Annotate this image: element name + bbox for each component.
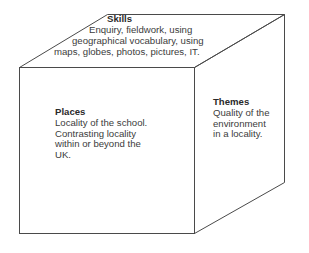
top-face-label: Skills Enquiry, fieldwork, using geograp… (0, 0, 309, 70)
side-face-label: Themes Quality of the environment in a l… (213, 97, 270, 140)
themes-line: in a locality. (213, 129, 270, 140)
themes-line: Quality of the (213, 108, 270, 119)
places-line: Locality of the school. (55, 118, 147, 129)
front-face-label: Places Locality of the school. Contrasti… (55, 107, 147, 161)
places-line: UK. (55, 150, 147, 161)
skills-line: maps, globes, photos, pictures, IT. (54, 47, 200, 58)
